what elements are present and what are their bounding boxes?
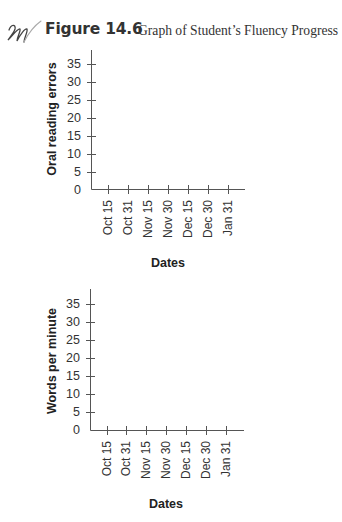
y-tick-label: 35 (60, 298, 80, 310)
x-tick-label: Nov 30 (160, 441, 172, 479)
chart-oral-reading-errors: Oral reading errors 35 30 25 20 15 10 5 … (0, 0, 342, 280)
y-tick-label: 30 (61, 76, 81, 88)
x-tick-label: Oct 31 (122, 200, 134, 235)
x-tick-label: Nov 15 (142, 200, 154, 238)
x-tick-label: Nov 15 (140, 441, 152, 479)
y-tick-label: 10 (60, 388, 80, 400)
y-tick-label: 20 (61, 112, 81, 124)
x-tick-label: Dec 15 (180, 441, 192, 479)
y-tick-label: 5 (60, 406, 80, 418)
y-tick-label: 10 (61, 148, 81, 160)
x-tick-label: Jan 31 (222, 200, 234, 236)
x-tick-label: Oct 15 (102, 200, 114, 235)
x-tick-label: Jan 31 (220, 441, 232, 477)
y-tick-label: 35 (61, 58, 81, 70)
y-tick-label: 15 (61, 130, 81, 142)
x-tick-label: Dec 30 (202, 200, 214, 238)
x-tick-label: Dec 30 (200, 441, 212, 479)
y-tick-label: 25 (60, 334, 80, 346)
x-tick-label: Oct 31 (120, 441, 132, 476)
y-tick-label: 0 (60, 424, 80, 436)
x-axis-label: Dates (149, 497, 183, 511)
x-tick-label: Nov 30 (162, 200, 174, 238)
y-axis-label: Oral reading errors (45, 62, 59, 175)
x-tick-label: Dec 15 (182, 200, 194, 238)
x-tick-label: Oct 15 (101, 441, 113, 476)
chart-words-per-minute: Words per minute 35 30 25 20 15 10 5 0 O… (0, 240, 342, 522)
y-tick-label: 15 (60, 370, 80, 382)
y-tick-label: 5 (61, 166, 81, 178)
y-tick-label: 30 (60, 316, 80, 328)
y-tick-label: 20 (60, 352, 80, 364)
y-tick-label: 25 (61, 94, 81, 106)
y-axis-label: Words per minute (45, 308, 59, 414)
y-tick-label: 0 (61, 184, 81, 196)
